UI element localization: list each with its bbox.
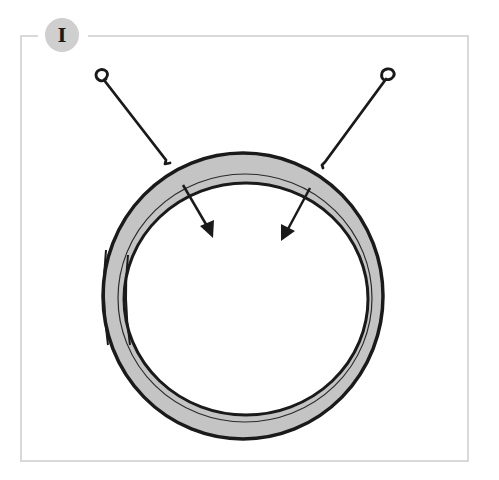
right-hook-icon <box>322 69 394 168</box>
right-arrow-icon <box>281 188 310 241</box>
ring-illustration <box>0 0 499 480</box>
ring <box>103 153 383 439</box>
left-hook-icon <box>96 70 170 164</box>
